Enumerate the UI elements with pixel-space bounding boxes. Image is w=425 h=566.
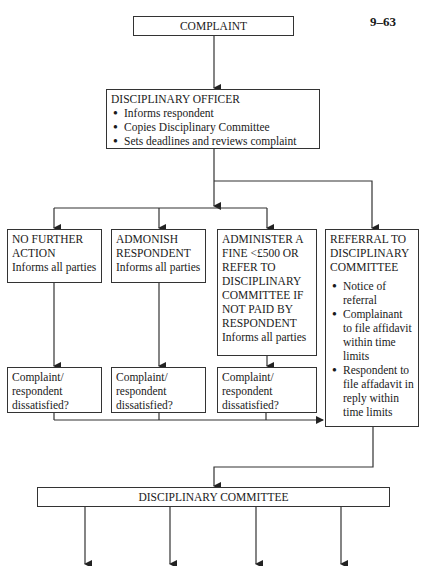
disciplinary-officer-title: DISCIPLINARY OFFICER <box>111 92 315 106</box>
box-title: NOT PAID BY <box>222 302 312 316</box>
box-note: Informs all parties <box>116 260 201 274</box>
box-note: Informs all parties <box>222 330 312 344</box>
box-title: DISCIPLINARY <box>222 274 312 288</box>
dissatisfied-box: Complaint/ respondent dissatisfied? <box>217 367 317 413</box>
no-further-action-box: NO FURTHER ACTION Informs all parties <box>7 229 102 283</box>
box-title: ADMINISTER A <box>222 232 312 246</box>
box-title: ACTION <box>12 246 97 260</box>
referral-bullet: Respondent to file affadavit in reply wi… <box>330 363 414 419</box>
box-title: COMMITTEE <box>330 260 414 274</box>
box-title: NO FURTHER <box>12 232 97 246</box>
box-title: RESPONDENT <box>222 316 312 330</box>
box-title: DISCIPLINARY <box>330 246 414 260</box>
page-number: 9–63 <box>370 14 396 30</box>
complaint-box: COMPLAINT <box>133 16 294 36</box>
referral-bullet: Notice of referral <box>330 279 414 307</box>
box-title: COMMITTEE IF <box>222 288 312 302</box>
disciplinary-committee-box: DISCIPLINARY COMMITTEE <box>37 487 390 507</box>
box-title: ADMONISH <box>116 232 201 246</box>
box-title: REFER TO <box>222 260 312 274</box>
officer-bullet: Copies Disciplinary Committee <box>111 120 315 134</box>
officer-bullet: Informs respondent <box>111 106 315 120</box>
dissatisfied-box: Complaint/ respondent dissatisfied? <box>111 367 206 413</box>
referral-box: REFERRAL TO DISCIPLINARY COMMITTEE Notic… <box>325 229 419 427</box>
administer-fine-box: ADMINISTER A FINE <£500 OR REFER TO DISC… <box>217 229 317 356</box>
box-title: FINE <£500 OR <box>222 246 312 260</box>
disciplinary-officer-box: DISCIPLINARY OFFICER Informs respondent … <box>106 89 320 149</box>
dissatisfied-box: Complaint/ respondent dissatisfied? <box>7 367 102 413</box>
referral-bullet: Complainant to file affidavit within tim… <box>330 307 414 363</box>
box-title: RESPONDENT <box>116 246 201 260</box>
box-note: Informs all parties <box>12 260 97 274</box>
officer-bullet: Sets deadlines and reviews complaint <box>111 134 315 148</box>
admonish-respondent-box: ADMONISH RESPONDENT Informs all parties <box>111 229 206 283</box>
box-title: REFERRAL TO <box>330 232 414 246</box>
